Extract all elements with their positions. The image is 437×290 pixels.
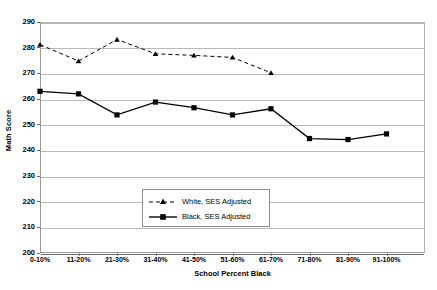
x-tick-mark-7 [310, 253, 311, 256]
x-tick-mark-4 [194, 253, 195, 256]
legend-sample-solid-square [148, 211, 178, 223]
data-point-triangle-5 [230, 55, 236, 60]
y-tick-label-230: 230 [9, 171, 35, 180]
x-tick-label-21-30: 21-30% [105, 256, 129, 263]
legend-label-black: Black, SES Adjusted [182, 212, 250, 221]
x-tick-label-51-60: 51-60% [220, 256, 244, 263]
data-point-square-5 [230, 112, 235, 117]
x-tick-label-11-20: 11-20% [67, 256, 91, 263]
data-point-triangle-1 [76, 58, 82, 63]
data-point-square-2 [114, 112, 119, 117]
x-tick-mark-8 [348, 253, 349, 256]
legend-item-white: White, SES Adjusted [148, 194, 264, 209]
x-tick-label-0-10: 0-10% [30, 256, 50, 263]
data-point-triangle-0 [37, 42, 43, 47]
x-tick-mark-9 [387, 253, 388, 256]
x-tick-label-91-100: 91-100% [372, 256, 400, 263]
x-tick-label-31-40: 31-40% [143, 256, 167, 263]
y-tick-label-220: 220 [9, 197, 35, 206]
math-score-line-chart: Math Score 29028027026025024023022021020… [0, 0, 437, 290]
data-point-square-1 [76, 91, 81, 96]
x-tick-label-71-80: 71-80% [297, 256, 321, 263]
x-tick-mark-1 [79, 253, 80, 256]
y-tick-label-240: 240 [9, 145, 35, 154]
y-tick-label-210: 210 [9, 222, 35, 231]
legend-sample-dashed-triangle [148, 196, 178, 208]
x-tick-label-61-70: 61-70% [259, 256, 283, 263]
data-point-square-6 [268, 106, 273, 111]
data-point-square-0 [37, 89, 42, 94]
x-tick-label-81-90: 81-90% [336, 256, 360, 263]
data-point-square-7 [307, 136, 312, 141]
y-tick-label-290: 290 [9, 17, 35, 26]
series-line [40, 91, 387, 139]
data-point-square-9 [384, 131, 389, 136]
x-tick-mark-2 [117, 253, 118, 256]
y-tick-label-260: 260 [9, 94, 35, 103]
data-point-square-4 [191, 105, 196, 110]
y-tick-label-270: 270 [9, 68, 35, 77]
data-point-square-3 [153, 99, 158, 104]
chart-legend: White, SES Adjusted Black, SES Adjusted [142, 189, 270, 227]
y-tick-label-250: 250 [9, 120, 35, 129]
legend-label-white: White, SES Adjusted [182, 197, 251, 206]
data-point-triangle-6 [268, 70, 274, 75]
x-axis-title: School Percent Black [40, 269, 425, 278]
x-tick-label-41-50: 41-50% [182, 256, 206, 263]
y-tick-label-280: 280 [9, 43, 35, 52]
data-point-triangle-2 [114, 37, 120, 42]
x-tick-mark-6 [271, 253, 272, 256]
data-point-square-8 [345, 137, 350, 142]
x-tick-mark-3 [156, 253, 157, 256]
series-black [37, 89, 389, 142]
legend-item-black: Black, SES Adjusted [148, 209, 264, 224]
y-axis-title: Math Score [0, 0, 18, 260]
series-line [40, 39, 271, 72]
series-white [37, 37, 274, 75]
x-tick-mark-5 [233, 253, 234, 256]
